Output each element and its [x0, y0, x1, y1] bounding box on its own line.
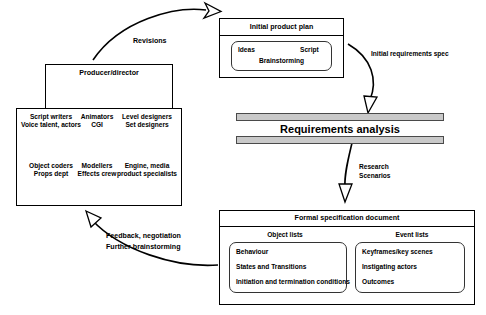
formal-specification-separator: [219, 226, 475, 227]
research-arrow-label-line1: Research: [359, 163, 389, 171]
event-list-item-keyframes: Keyframes/key scenes: [362, 248, 433, 256]
feedback-arrow-label-line2: Further brainstorming: [106, 243, 181, 252]
feedback-arrowhead: [86, 211, 101, 227]
initial-product-plan-header: Initial product plan: [219, 23, 344, 31]
object-list-item-states: States and Transitions: [236, 263, 306, 271]
feedback-arrow-label-line1: Feedback, negotiation: [106, 232, 181, 241]
formal-specification-header: Formal specification document: [219, 214, 475, 222]
requirements-bar-top: [236, 113, 444, 121]
research-arrow-label-line2: Scenarios: [359, 172, 391, 180]
staff-engine-media-line2: product specialists: [108, 170, 186, 178]
diagram-canvas: Producer/director Script writers Voice t…: [0, 0, 486, 315]
revisions-arrow-label: Revisions: [133, 37, 167, 46]
staff-level-designers-line1: Level designers: [112, 113, 182, 121]
staff-engine-media-line1: Engine, media: [110, 162, 184, 170]
requirements-bar-bottom: [236, 136, 444, 144]
research-arrowhead: [339, 184, 352, 202]
requirements-analysis-label: Requirements analysis: [236, 123, 444, 136]
object-lists-header: Object lists: [224, 231, 346, 239]
revisions-arrowhead: [204, 3, 221, 18]
initial-spec-arrowhead: [364, 96, 377, 113]
plan-ideas-label: Ideas: [238, 46, 255, 54]
plan-brainstorming-label: Brainstorming: [231, 57, 332, 65]
plan-script-label: Script: [300, 46, 319, 54]
initial-spec-arrow-path: [348, 44, 373, 100]
revisions-arrow-path: [93, 9, 206, 60]
staff-level-designers-line2: Set designers: [112, 121, 182, 129]
event-lists-header: Event lists: [354, 231, 470, 239]
producer-director-label: Producer/director: [45, 69, 173, 77]
research-arrow-path: [345, 143, 352, 188]
initial-product-plan-separator: [219, 35, 344, 36]
object-list-item-initiation: Initiation and termination conditions: [236, 278, 350, 286]
event-list-item-instigating-actors: Instigating actors: [362, 263, 417, 271]
event-list-item-outcomes: Outcomes: [362, 278, 394, 286]
initial-requirements-spec-label: Initial requirements spec: [371, 50, 449, 58]
object-list-item-behaviour: Behaviour: [236, 248, 268, 256]
